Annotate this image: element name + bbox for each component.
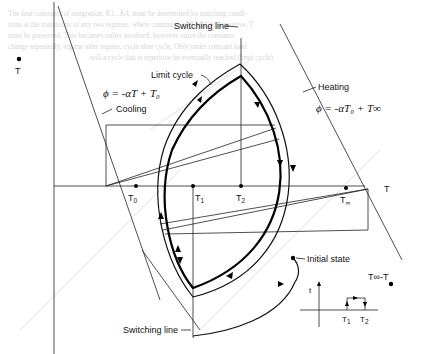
initial-state-arc: [293, 258, 299, 282]
label-tinf: T∞: [340, 195, 351, 206]
heating-line: [280, 24, 402, 260]
construction-ray-4: [163, 189, 368, 230]
axis-points: T0 T1 T2 T∞: [128, 184, 351, 206]
arrow-down-icon: [290, 165, 296, 172]
inset-label-t1: T1: [342, 315, 351, 325]
inset-arrow-up-icon: [345, 301, 349, 306]
background-bleed-text: The four constants of integration, K1...…: [8, 10, 275, 62]
switching-line-diagonal: [142, 250, 200, 330]
cooling-leader: [102, 109, 112, 114]
inset-arrow-right-icon: [353, 296, 358, 300]
initial-state-label: Initial state: [307, 254, 350, 264]
inset-step-diagram: t T1 T2: [300, 281, 378, 327]
heating-equation: ϕ = -αT₀ + T∞: [316, 102, 381, 114]
svg-text:The four constants of integrat: The four constants of integration, K1...…: [8, 10, 247, 18]
inset-axis-arrow-icon: [317, 281, 321, 286]
limit-cycle-label: Limit cycle: [151, 70, 193, 80]
limit-cycle-leader: [201, 75, 211, 85]
svg-text:change repeatedly, regime afte: change repeatedly, regime after regime, …: [8, 43, 247, 51]
point-tinf: [344, 186, 348, 190]
arrow-left-icon: [278, 281, 284, 287]
point-t0: [134, 184, 138, 188]
label-t2: T2: [236, 193, 246, 204]
t-inf-minus-t-label: T∞-T: [368, 272, 389, 282]
cooling-equation: ϕ = -αT + T₀: [103, 87, 160, 99]
inset-arrow-down-icon: [363, 302, 367, 307]
cooling-label: Cooling: [116, 104, 147, 114]
construction-ray-3: [160, 189, 368, 224]
heating-label: Heating: [318, 82, 349, 92]
arrow-down-icon: [277, 160, 283, 167]
svg-text:will a cycle that is repetitiv: will a cycle that is repetitive be event…: [90, 54, 275, 62]
switching-line-bottom-label: Switching line: [123, 325, 178, 335]
label-t1: T1: [195, 193, 205, 204]
initial-state-leader: [296, 258, 305, 259]
arrow-left-icon: [226, 272, 233, 279]
t-inf-minus-t-dot: [389, 282, 393, 286]
phase-plane-diagram: The four constants of integration, K1...…: [0, 0, 421, 354]
arrow-up-icon: [192, 80, 198, 87]
inset-label-t2: T2: [360, 315, 369, 325]
inset-step-path: [347, 298, 365, 310]
axis-marker-dot: [17, 57, 21, 61]
arrow-down-icon: [254, 102, 260, 108]
vertical-axis-label: T: [15, 66, 21, 76]
construction-ray-1: [106, 128, 276, 186]
direction-arrows: [158, 80, 296, 287]
inset-vertical-label: t: [309, 286, 312, 295]
label-t0: T0: [128, 193, 138, 204]
initial-state-trajectory: [193, 282, 295, 336]
horizontal-axis-label: T: [384, 184, 390, 194]
svg-text:must be preserved. This becom: must be preserved. This becomes rather i…: [8, 32, 235, 40]
point-t2: [239, 184, 243, 188]
point-t1: [191, 184, 195, 188]
construction-ray-2: [106, 139, 279, 186]
switching-line-top-label: Switching line: [174, 21, 229, 31]
arrow-up-icon: [175, 245, 181, 252]
